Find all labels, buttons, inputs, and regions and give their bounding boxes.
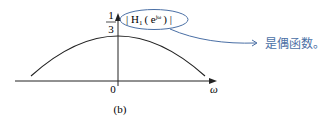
subfigure-label: (b) [114,103,127,116]
x-axis [15,78,217,84]
annotation-arrow [170,29,257,46]
svg-text:1: 1 [108,9,114,21]
y-axis-label: | H1( ejω) | [126,13,172,27]
chart-figure: 1 3 0 ω | H1( ejω) | 是偶函数。 (b) [0,0,332,118]
x-axis-label: ω [210,83,218,95]
y-tick-label: 1 3 [106,9,116,35]
origin-label: 0 [110,83,116,95]
y-axis [115,13,121,86]
svg-text:| H1( ejω) |: | H1( ejω) | [126,13,172,27]
svg-text:3: 3 [108,23,114,35]
annotation-text: 是偶函数。 [265,36,325,51]
